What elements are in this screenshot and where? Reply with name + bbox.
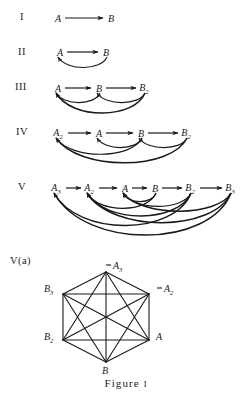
node-label-v-a: A: [122, 183, 128, 194]
node-label-iii-b: B: [96, 83, 102, 94]
row-label-i: I: [20, 11, 24, 22]
node-label-v-b: B: [152, 183, 158, 194]
row-label-v: V: [18, 181, 26, 192]
node-label-iii-a: A: [55, 83, 61, 94]
hex-vertex-label-a3: A3: [113, 260, 122, 273]
figure-container: IIIIIIIVVV(a) ABABABB2A2ABB2A3A2ABB2B3 A…: [0, 0, 251, 397]
hex-edge-b-b3: [63, 294, 106, 362]
node-label-ii-b: B: [103, 47, 109, 58]
caption-word: Figure: [104, 377, 139, 389]
row-label-iii: III: [15, 81, 27, 92]
back-arrow-ii-0: [58, 57, 107, 68]
node-label-iii-b2: B2: [139, 82, 148, 95]
node-label-v-a3: A3: [51, 182, 60, 195]
node-label-iv-a2: A2: [53, 127, 62, 140]
hex-vertex-label-a: A: [156, 331, 162, 342]
back-arrow-v-7: [54, 193, 231, 235]
node-label-i-a: A: [55, 13, 61, 24]
node-label-i-b: B: [108, 13, 114, 24]
node-label-iv-a: A: [96, 128, 102, 139]
back-arrow-iv-1: [139, 138, 187, 148]
hexagon-graph-layer: [63, 265, 162, 362]
hex-vertex-label-b2: B2: [44, 331, 53, 344]
node-label-iv-b: B: [138, 128, 144, 139]
row-label-va: V(a): [10, 255, 31, 266]
figure-drawing: [0, 0, 251, 397]
node-label-v-b2: B2: [185, 182, 194, 195]
hex-vertex-label-a2: A2: [164, 283, 173, 296]
back-arrow-v-6: [54, 193, 191, 226]
row-label-ii: II: [18, 46, 26, 57]
node-label-v-b3: B3: [225, 182, 234, 195]
hex-vertex-label-b3: B3: [44, 283, 53, 296]
hex-vertex-label-b: B: [102, 365, 108, 376]
row-label-iv: IV: [16, 126, 28, 137]
caption-number: I: [144, 379, 147, 389]
node-label-iv-b2: B2: [181, 127, 190, 140]
back-arrow-iii-1: [97, 93, 145, 103]
node-label-ii-a: A: [57, 47, 63, 58]
node-label-v-a2: A2: [84, 182, 93, 195]
figure-caption: Figure I: [0, 377, 251, 389]
